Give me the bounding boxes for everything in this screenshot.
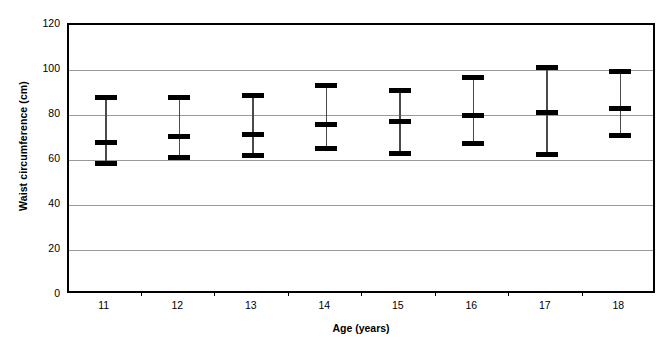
x-axis-tick xyxy=(214,291,215,296)
upper-cap-marker xyxy=(462,75,484,80)
lower-cap-marker xyxy=(242,153,264,158)
x-axis-tick-marks xyxy=(67,291,655,297)
mean-marker xyxy=(609,106,631,111)
x-axis-tick xyxy=(435,291,436,296)
mean-marker xyxy=(315,122,337,127)
mean-marker xyxy=(536,110,558,115)
y-axis-tick-label: 100 xyxy=(32,63,60,74)
mean-marker xyxy=(462,113,484,118)
whisker-line xyxy=(473,78,474,143)
y-axis-tick-label: 60 xyxy=(32,153,60,164)
upper-cap-marker xyxy=(168,95,190,100)
x-axis-tick xyxy=(508,291,509,296)
whisker-line xyxy=(179,97,180,158)
gridline xyxy=(69,70,653,71)
upper-cap-marker xyxy=(95,95,117,100)
whisker-line xyxy=(252,96,253,156)
whisker-line xyxy=(620,71,621,135)
gridline xyxy=(69,205,653,206)
lower-cap-marker xyxy=(95,161,117,166)
y-axis-tick-label: 80 xyxy=(32,108,60,119)
x-axis-tick-label: 11 xyxy=(84,299,124,312)
x-axis-tick-label: 17 xyxy=(525,299,565,312)
y-axis-tick-label: 20 xyxy=(32,243,60,254)
upper-cap-marker xyxy=(389,88,411,93)
x-axis-tick xyxy=(288,291,289,296)
lower-cap-marker xyxy=(389,151,411,156)
lower-cap-marker xyxy=(536,152,558,157)
x-axis-tick-label: 12 xyxy=(157,299,197,312)
y-axis-tick-labels: 020406080100120 xyxy=(32,0,60,350)
y-axis-tick-label: 40 xyxy=(32,198,60,209)
mean-marker xyxy=(95,140,117,145)
x-axis-tick-label: 16 xyxy=(451,299,491,312)
whisker-line xyxy=(326,86,327,149)
upper-cap-marker xyxy=(242,93,264,98)
chart-figure: Waist circumference (cm) 020406080100120… xyxy=(0,0,667,350)
x-axis-tick-labels: 1112131415161718 xyxy=(67,299,655,315)
x-axis-tick-label: 14 xyxy=(304,299,344,312)
lower-cap-marker xyxy=(462,141,484,146)
x-axis-title: Age (years) xyxy=(67,322,655,334)
mean-marker xyxy=(389,119,411,124)
y-axis-tick-label: 120 xyxy=(32,18,60,29)
x-axis-tick xyxy=(141,291,142,296)
gridline xyxy=(69,250,653,251)
x-axis-tick xyxy=(361,291,362,296)
gridline xyxy=(69,160,653,161)
x-axis-tick-label: 18 xyxy=(598,299,638,312)
mean-marker xyxy=(242,132,264,137)
whisker-line xyxy=(105,97,106,163)
lower-cap-marker xyxy=(609,133,631,138)
lower-cap-marker xyxy=(315,146,337,151)
x-axis-tick-label: 13 xyxy=(231,299,271,312)
mean-marker xyxy=(168,134,190,139)
plot-area xyxy=(67,23,655,293)
x-axis-tick-label: 15 xyxy=(378,299,418,312)
lower-cap-marker xyxy=(168,155,190,160)
gridline xyxy=(69,115,653,116)
y-axis-tick-label: 0 xyxy=(32,288,60,299)
upper-cap-marker xyxy=(609,69,631,74)
upper-cap-marker xyxy=(536,65,558,70)
upper-cap-marker xyxy=(315,83,337,88)
x-axis-tick xyxy=(582,291,583,296)
